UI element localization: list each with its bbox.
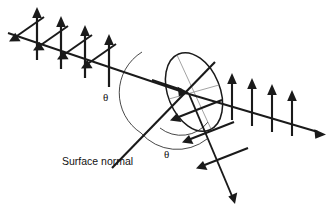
surface-normal-label: Surface normal — [62, 155, 133, 167]
angle-arc-icon — [119, 52, 208, 149]
vertical-polarization-arrow-icon — [227, 73, 297, 136]
vertical-polarization-arrow-icon — [32, 7, 114, 87]
figure-root: Surface normal θ θ — [0, 0, 335, 212]
theta-incident-label: θ — [103, 91, 108, 103]
surface-disc-icon — [155, 44, 234, 140]
optics-diagram: Surface normal θ θ — [0, 0, 335, 212]
incident-ray-icon — [8, 7, 189, 96]
theta-reflected-label: θ — [164, 148, 169, 160]
